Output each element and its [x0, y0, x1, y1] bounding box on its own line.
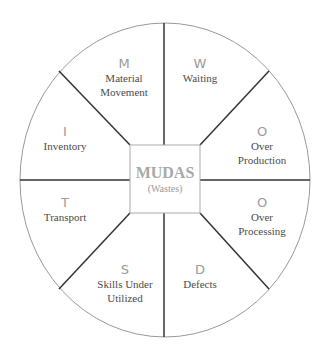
- center-subtitle: (Wastes): [148, 182, 183, 195]
- segment-over-processing: O Over Processing: [238, 196, 286, 238]
- segment-skills-under-utilized: S Skills Under Utilized: [97, 263, 152, 305]
- segment-transport: T Transport: [44, 196, 86, 224]
- segment-label: Over: [238, 139, 286, 153]
- segment-material-movement: M Material Movement: [100, 57, 148, 99]
- segment-label: Over: [238, 210, 286, 224]
- segment-defects: D Defects: [183, 263, 217, 291]
- segment-letter: T: [44, 196, 86, 210]
- segment-label: Production: [238, 153, 286, 167]
- segment-letter: D: [183, 263, 217, 277]
- segment-label: Material: [100, 71, 148, 85]
- segment-label: Movement: [100, 85, 148, 99]
- segment-inventory: I Inventory: [44, 125, 87, 153]
- segment-letter: O: [238, 196, 286, 210]
- segment-label: Skills Under: [97, 277, 152, 291]
- segment-label: Processing: [238, 224, 286, 238]
- segment-letter: S: [97, 263, 152, 277]
- segment-label: Waiting: [183, 71, 218, 85]
- segment-letter: M: [100, 57, 148, 71]
- segment-over-production: O Over Production: [238, 125, 286, 167]
- segment-label: Utilized: [97, 291, 152, 305]
- center-title: MUDAS: [136, 164, 195, 182]
- segment-label: Transport: [44, 210, 86, 224]
- segment-letter: W: [183, 57, 218, 71]
- segment-label: Inventory: [44, 139, 87, 153]
- segment-letter: I: [44, 125, 87, 139]
- segment-waiting: W Waiting: [183, 57, 218, 85]
- segment-label: Defects: [183, 277, 217, 291]
- segment-letter: O: [238, 125, 286, 139]
- center-label: MUDAS (Wastes): [130, 145, 200, 213]
